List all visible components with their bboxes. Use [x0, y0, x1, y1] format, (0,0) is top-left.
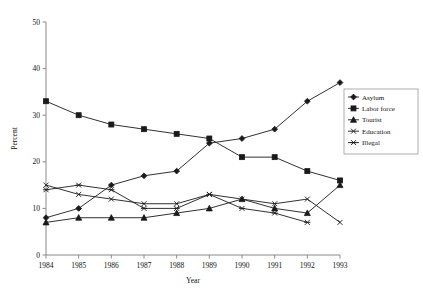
series-line-1: [46, 101, 340, 180]
x-tick-label: 1987: [137, 261, 152, 270]
legend-label-4: Illegal: [362, 139, 380, 147]
y-tick-label: 40: [33, 64, 41, 73]
series-line-3: [46, 185, 340, 222]
series-marker-0: [141, 173, 147, 179]
x-tick-label: 1992: [300, 261, 315, 270]
series-line-0: [46, 83, 340, 218]
x-tick-label: 1990: [235, 261, 250, 270]
x-tick-label: 1989: [202, 261, 217, 270]
series-marker-1: [109, 122, 114, 127]
x-tick-label: 1986: [104, 261, 119, 270]
legend-label-3: Education: [362, 128, 391, 136]
y-tick-label: 0: [36, 251, 40, 260]
series-marker-1: [142, 127, 147, 132]
series-marker-1: [305, 169, 310, 174]
series-marker-0: [76, 206, 82, 212]
legend-marker-1: [351, 106, 356, 111]
line-chart: 0102030405019841985198619871988198919901…: [0, 0, 423, 298]
series-marker-1: [272, 155, 277, 160]
series-marker-1: [44, 99, 49, 104]
x-axis-title: Year: [186, 276, 200, 285]
legend-label-1: Labor force: [362, 105, 395, 113]
x-tick-label: 1985: [71, 261, 86, 270]
chart-canvas: 0102030405019841985198619871988198919901…: [0, 0, 423, 298]
x-tick-label: 1984: [39, 261, 54, 270]
series-marker-0: [239, 136, 245, 142]
y-axis-title: Percent: [10, 126, 19, 149]
x-tick-label: 1993: [333, 261, 348, 270]
y-tick-label: 30: [33, 111, 41, 120]
series-marker-1: [240, 155, 245, 160]
series-line-2: [46, 185, 340, 222]
y-tick-label: 50: [33, 18, 41, 27]
legend-label-2: Tourist: [362, 116, 382, 124]
y-tick-label: 10: [33, 204, 41, 213]
series-marker-1: [174, 131, 179, 136]
series-marker-1: [207, 136, 212, 141]
x-tick-label: 1988: [169, 261, 184, 270]
y-tick-label: 20: [33, 157, 41, 166]
x-tick-label: 1991: [267, 261, 282, 270]
legend-label-0: Asylum: [362, 94, 385, 102]
series-marker-0: [337, 80, 343, 86]
series-marker-1: [76, 113, 81, 118]
